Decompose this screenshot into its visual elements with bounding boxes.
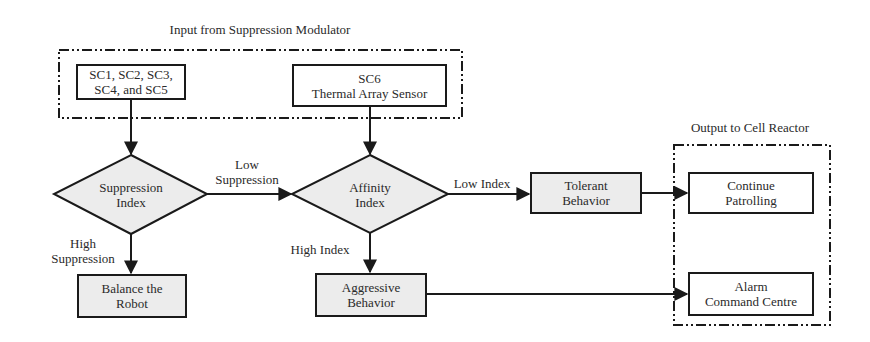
- balance-the-robot-box: Balance the Robot: [77, 274, 187, 318]
- high-suppression-line2: Suppression: [43, 251, 123, 266]
- sc6-line2: Thermal Array Sensor: [312, 86, 428, 101]
- sc6-line1: SC6: [358, 71, 380, 86]
- suppression-index-line2: Index: [81, 195, 181, 210]
- low-suppression-label: Low Suppression: [207, 157, 287, 187]
- affinity-index-label: Affinity Index: [320, 180, 420, 210]
- continue-line1: Continue: [727, 178, 775, 193]
- affinity-index-line1: Affinity: [320, 180, 420, 195]
- alarm-line1: Alarm: [734, 279, 767, 294]
- high-suppression-line1: High: [43, 236, 123, 251]
- low-suppression-line2: Suppression: [207, 172, 287, 187]
- alarm-command-centre-box: Alarm Command Centre: [688, 272, 814, 316]
- alarm-line2: Command Centre: [705, 294, 797, 309]
- high-suppression-label: High Suppression: [43, 236, 123, 266]
- balance-line2: Robot: [116, 296, 148, 311]
- balance-line1: Balance the: [102, 281, 163, 296]
- aggressive-line2: Behavior: [347, 295, 395, 310]
- low-index-label: Low Index: [442, 176, 522, 191]
- sc1-sc5-box: SC1, SC2, SC3, SC4, and SC5: [76, 64, 186, 100]
- continue-line2: Patrolling: [725, 193, 776, 208]
- suppression-index-line1: Suppression: [81, 180, 181, 195]
- low-suppression-line1: Low: [207, 157, 287, 172]
- sc1-sc5-line1: SC1, SC2, SC3,: [89, 67, 172, 82]
- tolerant-line1: Tolerant: [564, 178, 607, 193]
- aggressive-line1: Aggressive: [342, 280, 401, 295]
- sc6-thermal-array-sensor-box: SC6 Thermal Array Sensor: [292, 64, 447, 107]
- tolerant-line2: Behavior: [562, 193, 610, 208]
- aggressive-behavior-box: Aggressive Behavior: [315, 273, 427, 317]
- tolerant-behavior-box: Tolerant Behavior: [530, 172, 642, 214]
- high-index-label: High Index: [280, 242, 360, 257]
- output-group-title: Output to Cell Reactor: [670, 120, 830, 135]
- sc1-sc5-line2: SC4, and SC5: [94, 82, 167, 97]
- continue-patrolling-box: Continue Patrolling: [688, 172, 814, 214]
- affinity-index-line2: Index: [320, 195, 420, 210]
- input-group-title: Input from Suppression Modulator: [130, 22, 390, 37]
- suppression-index-label: Suppression Index: [81, 180, 181, 210]
